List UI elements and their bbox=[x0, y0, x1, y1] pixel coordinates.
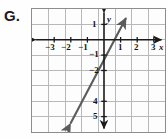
x-tick-label-neg1: −1 bbox=[78, 43, 88, 52]
graph-problem-card: G. bbox=[0, 0, 168, 139]
y-tick-label-neg4: 4 bbox=[93, 97, 98, 106]
x-tick-label-2: 2 bbox=[134, 43, 139, 52]
x-tick-label-3: 3 bbox=[151, 43, 156, 52]
x-tick-label-1: 1 bbox=[118, 43, 123, 52]
y-tick-label-neg5: 5 bbox=[93, 112, 98, 121]
problem-letter: G. bbox=[4, 8, 20, 23]
x-tick-label-neg3: −3 bbox=[45, 43, 55, 52]
coordinate-graph: −3 −2 −1 1 2 3 1 −1 −2 4 5 y x bbox=[31, 8, 166, 133]
y-tick-label-neg2: −2 bbox=[89, 66, 99, 75]
x-axis-label: x bbox=[159, 43, 164, 52]
x-tick-label-neg2: −2 bbox=[61, 43, 71, 52]
y-tick-label-1: 1 bbox=[92, 20, 97, 29]
y-tick-label-neg1: −1 bbox=[89, 50, 99, 59]
y-axis-label: y bbox=[107, 15, 111, 24]
